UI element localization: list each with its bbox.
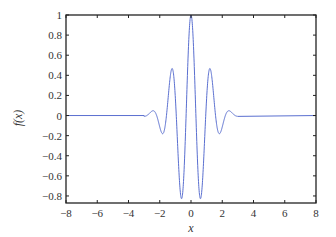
axes-frame bbox=[66, 15, 316, 203]
y-tick-label: 1 bbox=[57, 9, 63, 21]
y-axis-label: f(x) bbox=[11, 110, 25, 127]
y-tick-label: −0.4 bbox=[42, 150, 62, 162]
line-chart: −8−6−4−202468 10.80.60.40.20−0.2−0.4−0.6… bbox=[0, 0, 336, 237]
y-tick-label: −0.6 bbox=[42, 170, 62, 182]
y-tick-label: 0.2 bbox=[48, 89, 62, 101]
y-tick-label: 0.4 bbox=[48, 69, 62, 81]
x-tick-label: 0 bbox=[188, 207, 194, 219]
data-line-f-x bbox=[66, 15, 316, 199]
y-tick-label: −0.2 bbox=[42, 130, 62, 142]
x-tick-label: 8 bbox=[313, 207, 319, 219]
x-axis-ticks: −8−6−4−202468 bbox=[60, 15, 319, 219]
plot-area bbox=[66, 15, 316, 199]
x-tick-label: −2 bbox=[154, 207, 166, 219]
x-tick-label: 6 bbox=[282, 207, 288, 219]
y-tick-label: 0 bbox=[57, 110, 63, 122]
x-axis-label: x bbox=[187, 221, 194, 235]
x-tick-label: −8 bbox=[60, 207, 72, 219]
x-tick-label: 4 bbox=[251, 207, 257, 219]
x-tick-label: −6 bbox=[91, 207, 103, 219]
y-tick-label: 0.6 bbox=[48, 49, 62, 61]
y-tick-label: −0.8 bbox=[42, 190, 62, 202]
x-tick-label: −4 bbox=[123, 207, 135, 219]
y-tick-label: 0.8 bbox=[48, 29, 62, 41]
x-tick-label: 2 bbox=[220, 207, 226, 219]
